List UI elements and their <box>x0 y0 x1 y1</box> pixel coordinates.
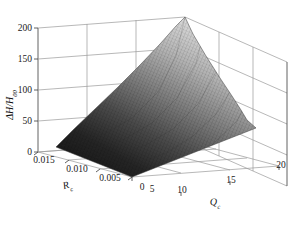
svg-text:ΔH/H00: ΔH/H00 <box>4 89 18 120</box>
y-tick-label: 15 <box>226 175 236 185</box>
z-tick-label: 50 <box>23 116 33 126</box>
z-axis-title-main: ΔH <box>4 106 15 121</box>
z-axis-title-sub: 00 <box>11 89 18 96</box>
x-tick-label: 0.010 <box>66 164 88 174</box>
z-tick-label: 100 <box>18 85 33 95</box>
y-axis-title: Qc <box>209 196 220 210</box>
z-tick-label: 150 <box>18 54 33 64</box>
z-axis-title: ΔH/H00 <box>4 89 18 120</box>
y-tick-label: 5 <box>150 184 155 194</box>
surface-mesh <box>56 17 256 177</box>
x-tick-label: 0 <box>140 182 145 192</box>
svg-text:Rc: Rc <box>60 178 73 194</box>
z-tick-label: 0 <box>27 147 32 157</box>
svg-text:Qc: Qc <box>209 196 220 210</box>
x-tick-label: 0.015 <box>33 155 55 165</box>
figure-container: 200 150 100 50 0 ΔH/H00 0.015 0.010 0.00… <box>0 0 308 232</box>
x-axis-title: Rc <box>60 178 73 194</box>
z-axis-ticks: 200 150 100 50 0 <box>18 23 38 157</box>
y-axis-title-sub: c <box>217 202 220 209</box>
surface-plot: 200 150 100 50 0 ΔH/H00 0.015 0.010 0.00… <box>0 0 308 232</box>
x-axis-title-sub: c <box>69 184 74 192</box>
x-tick-label: 0.005 <box>99 173 121 183</box>
z-tick-label: 200 <box>18 23 33 33</box>
y-tick-label: 20 <box>276 160 286 170</box>
y-tick-label: 10 <box>177 185 187 195</box>
